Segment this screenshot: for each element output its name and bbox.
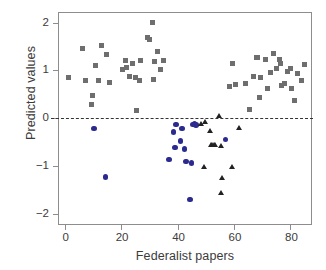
data-point-triangle: [218, 190, 224, 195]
data-point-square: [150, 20, 155, 25]
data-point-square: [89, 102, 94, 107]
x-axis-tick-label: 80: [277, 231, 305, 243]
data-point-triangle: [209, 142, 215, 147]
x-axis-tick-label: 40: [165, 231, 193, 243]
data-point-circle: [189, 160, 195, 166]
data-point-square: [123, 58, 128, 63]
data-point-circle: [172, 145, 178, 151]
y-axis-tick: −2: [53, 214, 59, 215]
data-point-square: [99, 43, 104, 48]
data-point-circle: [193, 122, 199, 128]
y-axis-tick-label: 2: [43, 16, 49, 28]
data-point-triangle: [216, 113, 222, 118]
data-point-circle: [183, 159, 189, 165]
data-point-square: [145, 35, 150, 40]
data-point-square: [138, 58, 143, 63]
data-point-circle: [179, 126, 185, 132]
plot-area: 210−1−2020406080: [59, 13, 311, 224]
y-axis-tick-label: −2: [36, 207, 49, 219]
data-point-square: [265, 86, 270, 91]
data-point-square: [96, 78, 101, 83]
data-point-square: [282, 81, 287, 86]
data-point-square: [254, 55, 259, 60]
y-axis-tick-label: −1: [36, 159, 49, 171]
data-point-circle: [103, 174, 109, 180]
x-axis-tick: 40: [178, 224, 179, 230]
data-point-square: [107, 80, 112, 85]
data-point-circle: [178, 138, 184, 144]
data-point-square: [155, 49, 160, 54]
data-point-square: [124, 65, 129, 70]
data-point-circle: [166, 157, 172, 163]
y-axis-tick: 1: [53, 70, 59, 71]
data-point-square: [274, 66, 279, 71]
data-point-square: [247, 107, 252, 112]
x-axis-tick: 60: [234, 224, 235, 230]
data-point-square: [251, 74, 256, 79]
data-point-square: [292, 98, 297, 103]
data-point-square: [258, 75, 263, 80]
data-point-square: [120, 67, 125, 72]
data-point-square: [133, 75, 138, 80]
data-point-square: [127, 74, 132, 79]
data-point-square: [289, 86, 294, 91]
data-point-square: [227, 84, 232, 89]
data-point-square: [158, 67, 163, 72]
x-axis-tick: 80: [290, 224, 291, 230]
data-point-square: [90, 93, 95, 98]
data-point-triangle: [201, 164, 207, 169]
data-point-square: [152, 59, 157, 64]
data-point-circle: [187, 197, 193, 203]
scatter-plot-figure: Predicted values 210−1−2020406080 Federa…: [0, 0, 326, 270]
zero-reference-line: [51, 118, 313, 119]
data-point-square: [243, 81, 248, 86]
x-axis-tick: 20: [121, 224, 122, 230]
data-point-square: [134, 108, 139, 113]
data-point-triangle: [208, 142, 214, 147]
x-axis-label: Federalist papers: [58, 249, 312, 263]
data-point-triangle: [229, 164, 235, 169]
data-point-square: [295, 71, 300, 76]
y-axis-tick-label: 1: [43, 63, 49, 75]
data-point-circle: [223, 137, 229, 143]
data-point-square: [137, 78, 142, 83]
data-point-square: [233, 82, 238, 87]
x-axis-tick: 0: [65, 224, 66, 230]
data-point-square: [268, 70, 273, 75]
data-point-square: [80, 46, 85, 51]
data-point-circle: [190, 122, 196, 128]
data-point-square: [104, 52, 109, 57]
data-point-square: [93, 63, 98, 68]
data-point-square: [288, 66, 293, 71]
data-point-triangle: [218, 143, 224, 148]
data-point-square: [302, 62, 307, 67]
data-point-triangle: [198, 121, 204, 126]
y-axis-label: Predicted values: [24, 8, 38, 178]
y-axis-tick: 2: [53, 23, 59, 24]
x-axis-tick-label: 0: [52, 231, 80, 243]
data-point-square: [255, 55, 260, 60]
data-point-square: [277, 57, 282, 62]
data-point-square: [147, 37, 152, 42]
data-point-square: [271, 51, 276, 56]
y-axis-tick: −1: [53, 166, 59, 167]
data-point-square: [285, 69, 290, 74]
data-point-square: [299, 78, 304, 83]
data-point-square: [66, 75, 71, 80]
data-point-square: [83, 78, 88, 83]
plot-frame: 210−1−2020406080: [58, 12, 312, 225]
data-point-circle: [91, 126, 97, 132]
data-point-triangle: [202, 119, 208, 124]
data-point-square: [263, 57, 268, 62]
data-point-triangle: [219, 175, 225, 180]
data-point-square: [278, 61, 283, 66]
data-point-circle: [173, 122, 179, 128]
y-axis-tick-label: 0: [43, 111, 49, 123]
data-point-triangle: [207, 128, 213, 133]
data-point-square: [161, 58, 166, 63]
x-axis-tick-label: 60: [221, 231, 249, 243]
data-point-square: [151, 77, 156, 82]
data-point-triangle: [211, 142, 217, 147]
data-point-circle: [182, 146, 188, 152]
data-point-square: [130, 61, 135, 66]
